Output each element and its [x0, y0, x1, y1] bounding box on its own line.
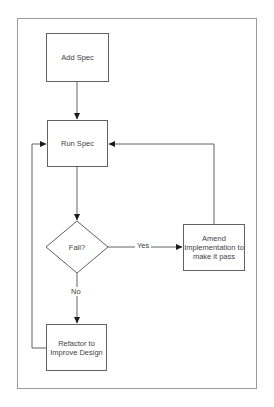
- node-add-spec: Add Spec: [46, 33, 109, 82]
- node-fail-decision-label: Fail?: [69, 243, 85, 252]
- node-amend-implementation: Amend Implementation to make it pass: [183, 224, 245, 271]
- node-fail-decision: Fail?: [46, 221, 108, 273]
- node-refactor-improve-design-label: Refactor to Improve Design: [50, 339, 103, 357]
- edge-refactor-to-run: [32, 144, 46, 348]
- node-add-spec-label: Add Spec: [61, 53, 94, 62]
- node-refactor-improve-design: Refactor to Improve Design: [46, 324, 107, 371]
- node-run-spec: Run Spec: [47, 120, 108, 167]
- flowchart-connectors: [0, 0, 274, 407]
- node-run-spec-label: Run Spec: [61, 139, 94, 148]
- edge-label-no: No: [69, 287, 83, 296]
- edge-amend-to-run: [109, 144, 214, 224]
- edge-label-yes: Yes: [135, 241, 151, 250]
- node-amend-implementation-label: Amend Implementation to make it pass: [184, 234, 244, 261]
- flowchart-canvas: Add Spec Run Spec Fail? Amend Implementa…: [0, 0, 274, 407]
